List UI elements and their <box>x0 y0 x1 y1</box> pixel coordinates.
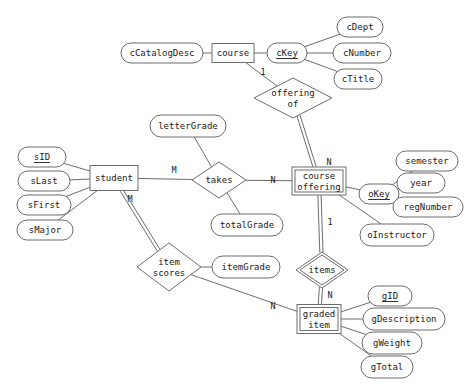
attribute-gDescription[interactable]: gDescription <box>363 308 445 330</box>
attribute-label-regNumber: regNumber <box>404 202 453 212</box>
edge-cKey-to-cTitle <box>303 59 340 72</box>
er-diagram-canvas: coursestudentcourseofferinggradeditemoff… <box>0 0 471 391</box>
edge-offering_of-to-course_offering <box>297 115 316 168</box>
entity-student[interactable]: student <box>90 166 138 191</box>
edge-sLast-to-student <box>70 179 90 180</box>
attribute-label-okey: oKey <box>368 189 390 199</box>
cardinality-card-offeringof-offering: N <box>326 157 331 167</box>
attribute-label-gID: gID <box>382 291 398 301</box>
relationship-label-item_scores-line1: item <box>158 257 180 267</box>
attribute-label-gWeight: gWeight <box>373 338 411 348</box>
attribute-gWeight[interactable]: gWeight <box>362 332 422 354</box>
attribute-label-itemGrade: itemGrade <box>222 262 271 272</box>
edge-course_offering-to-items <box>318 195 323 253</box>
attribute-label-semester: semester <box>405 156 449 166</box>
entity-label-course: course <box>217 48 250 58</box>
attribute-label-letterGrade: letterGrade <box>158 121 218 131</box>
attribute-sID[interactable]: sID <box>18 147 66 167</box>
attribute-itemGrade[interactable]: itemGrade <box>212 256 280 278</box>
edge-item_scores-to-graded_item <box>191 275 297 312</box>
edge-student-to-item_scores <box>120 190 160 252</box>
entity-label-course_offering-line2: offering <box>297 182 340 192</box>
entity-course_offering[interactable]: courseoffering <box>292 167 346 195</box>
edge-course_offering-to-okey <box>346 187 361 190</box>
entity-label-student: student <box>95 173 133 183</box>
relationship-label-takes: takes <box>205 175 232 185</box>
attribute-gID[interactable]: gID <box>368 286 412 306</box>
attribute-cKey[interactable]: cKey <box>267 43 307 63</box>
attribute-label-sLast: sLast <box>30 176 57 186</box>
edge-takes-to-totalGrade <box>227 193 240 214</box>
entity-graded_item[interactable]: gradeditem <box>297 305 341 334</box>
edge-student-to-takes <box>138 178 193 179</box>
attribute-label-cTitle: cTitle <box>342 74 375 84</box>
attribute-label-sMajor: sMajor <box>29 225 62 235</box>
attribute-sLast[interactable]: sLast <box>18 171 70 191</box>
attribute-label-sFirst: sFirst <box>28 200 61 210</box>
entity-course[interactable]: course <box>212 44 254 63</box>
edge-graded_item-to-gWeight <box>341 326 370 335</box>
attribute-cTitle[interactable]: cTitle <box>334 69 382 89</box>
attribute-label-cKey: cKey <box>276 48 298 58</box>
edge-items-to-graded_item <box>318 287 322 304</box>
cardinality-card-takes-offering: N <box>270 175 275 185</box>
cardinality-card-student-takes: M <box>171 165 176 175</box>
attribute-year[interactable]: year <box>397 173 445 193</box>
attribute-regNumber[interactable]: regNumber <box>393 197 463 217</box>
attribute-label-totalGrade: totalGrade <box>220 220 274 230</box>
attribute-label-cDept: cDept <box>346 22 373 32</box>
relationship-offering_of[interactable]: offeringof <box>254 78 332 118</box>
attribute-totalGrade[interactable]: totalGrade <box>211 214 283 236</box>
attribute-okey[interactable]: oKey <box>359 184 399 204</box>
edge-sID-to-student <box>62 163 90 171</box>
entity-label-course_offering-line1: course <box>303 171 336 181</box>
attribute-semester[interactable]: semester <box>396 151 458 171</box>
relationship-takes[interactable]: takes <box>192 162 246 198</box>
relationship-label-item_scores-line2: scores <box>153 268 186 278</box>
relationship-items[interactable]: items <box>296 252 348 288</box>
attribute-cNumber[interactable]: cNumber <box>333 43 391 63</box>
attribute-label-year: year <box>410 178 432 188</box>
cardinality-card-itemscores-graded: N <box>270 301 275 311</box>
attribute-sFirst[interactable]: sFirst <box>17 195 71 215</box>
cardinality-card-student-itemscores: M <box>127 194 132 204</box>
entity-label-graded_item-line1: graded <box>303 309 336 319</box>
relationship-item_scores[interactable]: itemscores <box>137 243 201 291</box>
attribute-label-gTotal: gTotal <box>371 362 404 372</box>
er-diagram-svg: coursestudentcourseofferinggradeditemoff… <box>0 0 471 391</box>
attribute-cCatalogDesc[interactable]: cCatalogDesc <box>121 43 203 63</box>
attribute-label-gDescription: gDescription <box>371 314 436 324</box>
attribute-label-oInstructor: oInstructor <box>367 230 427 240</box>
attribute-cDept[interactable]: cDept <box>337 17 383 37</box>
node-layer: coursestudentcourseofferinggradeditemoff… <box>17 17 463 378</box>
attribute-letterGrade[interactable]: letterGrade <box>150 115 226 137</box>
attribute-gTotal[interactable]: gTotal <box>361 356 413 378</box>
cardinality-card-course-offeringof: 1 <box>260 67 265 77</box>
cardinality-card-offering-items: 1 <box>327 217 332 227</box>
relationship-label-offering_of-line1: offering <box>271 88 314 98</box>
cardinality-card-items-graded: N <box>327 290 332 300</box>
entity-label-graded_item-line2: item <box>308 320 330 330</box>
attribute-oInstructor[interactable]: oInstructor <box>360 224 434 246</box>
relationship-label-offering_of-line2: of <box>288 99 299 109</box>
attribute-label-sID: sID <box>34 152 50 162</box>
attribute-label-cCatalogDesc: cCatalogDesc <box>129 48 194 58</box>
edge-letterGrade-to-takes <box>194 137 211 167</box>
attribute-label-cNumber: cNumber <box>343 48 382 58</box>
relationship-label-items: items <box>308 265 335 275</box>
attribute-sMajor[interactable]: sMajor <box>17 220 73 240</box>
